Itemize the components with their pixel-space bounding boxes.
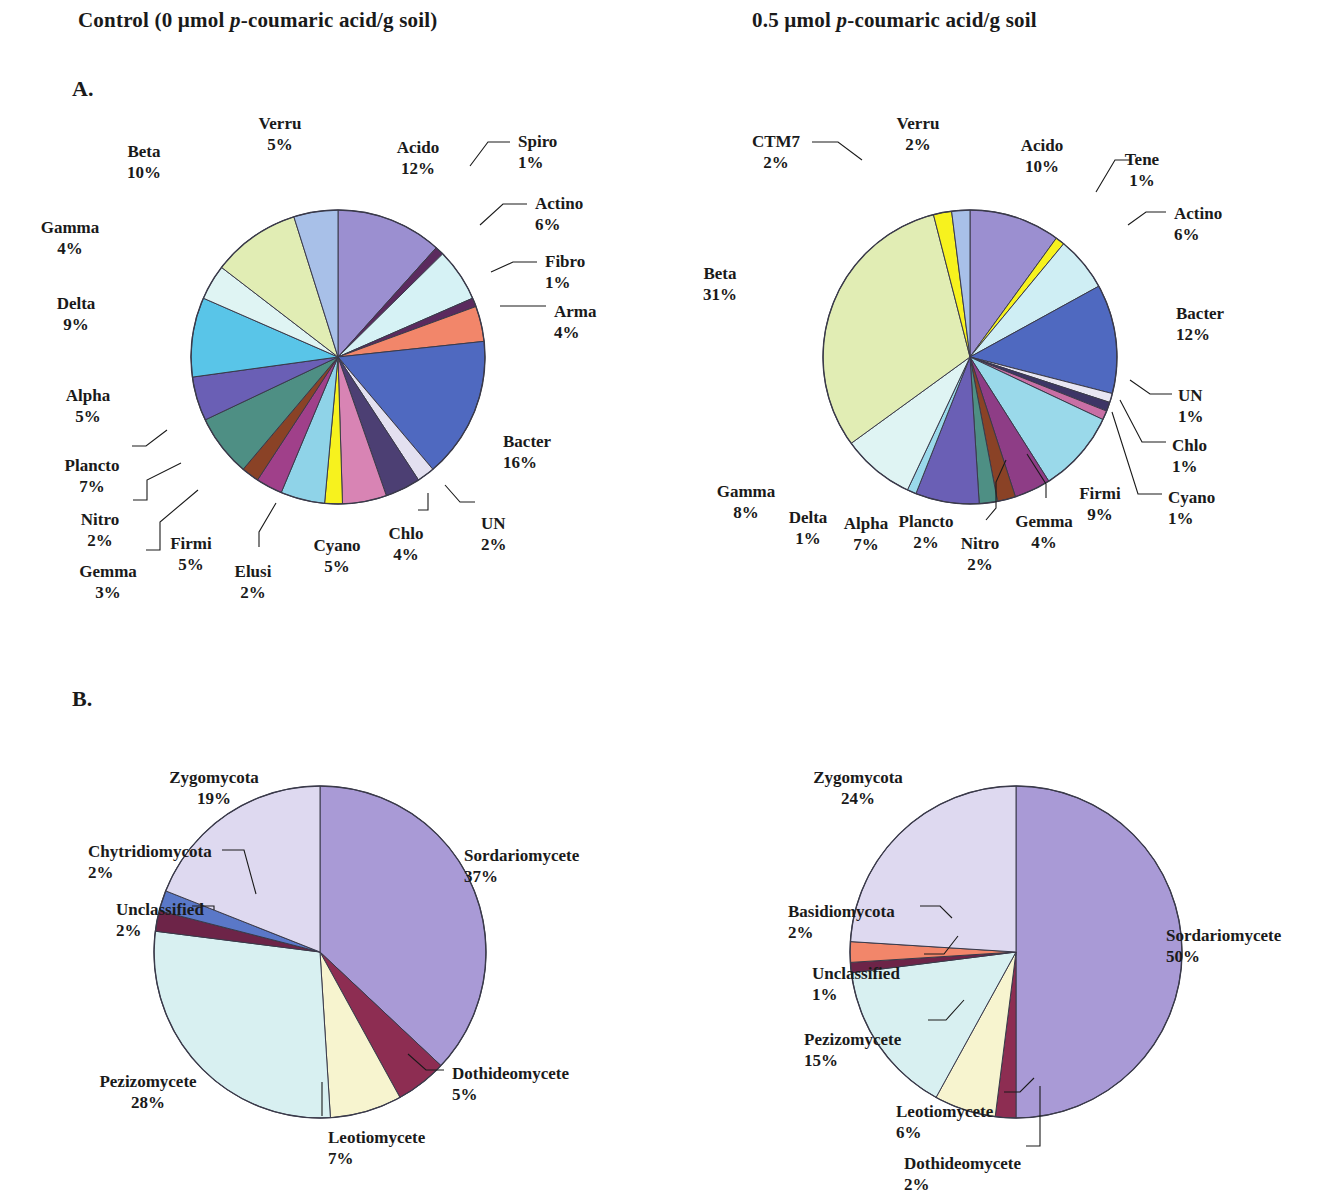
pie-label-value: 7% (79, 477, 105, 496)
pie-label-value: 2% (913, 533, 939, 552)
pie-label-dothideomycete: Dothideomycete2% (904, 1154, 1022, 1194)
pie-label-actino: Actino6% (535, 194, 583, 234)
pie-chart-bacteria-treated: Acido10%Tene1%Actino6%Bacter12%UN1%Chlo1… (790, 112, 1325, 652)
pie-slice-zygomycota (850, 786, 1016, 952)
pie-label-name: Dothideomycete (452, 1064, 570, 1083)
pie-label-value: 1% (1168, 509, 1194, 528)
leader-line-actino (480, 204, 527, 225)
leader-line-un (1130, 380, 1172, 394)
pie-label-name: Beta (127, 142, 161, 161)
pie-label-value: 4% (554, 323, 580, 342)
pie-label-leotiomycete: Leotiomycete7% (328, 1128, 426, 1168)
column-title-treated-italic: p (836, 8, 847, 32)
pie-label-value: 16% (503, 453, 537, 472)
pie-label-tene: Tene1% (1125, 150, 1160, 190)
pie-label-un: UN2% (481, 514, 507, 554)
column-title-treated: 0.5 µmol p-coumaric acid/g soil (752, 8, 1037, 33)
pie-chart-fungi-treated: Sordariomycete50%Leotiomycete6%Dothideom… (836, 748, 1325, 1188)
pie-label-alpha: Alpha5% (66, 386, 111, 426)
pie-label-name: Gamma (717, 482, 776, 501)
pie-label-name: Fibro (545, 252, 585, 271)
pie-label-name: Alpha (66, 386, 111, 405)
panel-a-letter: A. (72, 76, 93, 102)
pie-slices (823, 210, 1117, 504)
pie-label-value: 28% (131, 1093, 165, 1112)
pie-label-value: 2% (240, 583, 266, 602)
panel-b-letter: B. (72, 686, 92, 712)
pie-label-alpha: Alpha7% (844, 514, 889, 554)
pie-label-name: Unclassified (812, 964, 900, 983)
pie-label-value: 6% (535, 215, 561, 234)
pie-slices (154, 786, 486, 1118)
pie-slice-sordariomycete (1016, 786, 1182, 1118)
pie-label-value: 5% (324, 557, 350, 576)
pie-label-name: Pezizomycete (804, 1030, 902, 1049)
pie-slices (191, 210, 485, 504)
pie-label-delta: Delta1% (789, 508, 828, 548)
pie-label-name: Delta (789, 508, 828, 527)
pie-label-name: Acido (1021, 136, 1064, 155)
pie-label-name: Alpha (844, 514, 889, 533)
pie-label-value: 12% (1176, 325, 1210, 344)
pie-label-plancto: Plancto2% (899, 512, 954, 552)
pie-label-verru: Verru2% (897, 114, 940, 154)
pie-label-gemma: Gemma3% (79, 562, 137, 602)
pie-label-arma: Arma4% (554, 302, 597, 342)
pie-svg-bacteria-control: Acido12%Spiro1%Actino6%Fibro1%Arma4%Bact… (48, 112, 608, 652)
pie-label-value: 1% (1172, 457, 1198, 476)
pie-label-name: Delta (57, 294, 96, 313)
pie-label-value: 4% (393, 545, 419, 564)
pie-label-name: Sordariomycete (464, 846, 580, 865)
pie-label-value: 10% (1025, 157, 1059, 176)
pie-label-name: Acido (397, 138, 440, 157)
pie-label-name: Chlo (389, 524, 424, 543)
pie-label-delta: Delta9% (57, 294, 96, 334)
pie-label-beta: Beta10% (127, 142, 161, 182)
pie-label-value: 24% (841, 789, 875, 808)
pie-label-name: Nitro (961, 534, 999, 553)
pie-label-beta: Beta31% (703, 264, 737, 304)
pie-label-name: Spiro (518, 132, 557, 151)
pie-label-name: Bacter (503, 432, 552, 451)
pie-label-value: 2% (904, 1175, 930, 1194)
pie-label-value: 7% (853, 535, 879, 554)
leader-line-fibro (491, 262, 537, 272)
leader-line-ctm7 (812, 142, 862, 160)
pie-label-name: Dothideomycete (904, 1154, 1022, 1173)
pie-label-value: 37% (464, 867, 498, 886)
leader-line-nitro (133, 463, 181, 500)
pie-label-name: Arma (554, 302, 597, 321)
pie-label-value: 4% (57, 239, 83, 258)
pie-label-name: Leotiomycete (328, 1128, 426, 1147)
pie-label-value: 2% (116, 921, 142, 940)
pie-label-name: Leotiomycete (896, 1102, 994, 1121)
pie-label-nitro: Nitro2% (961, 534, 999, 574)
pie-label-leotiomycete: Leotiomycete6% (896, 1102, 994, 1142)
pie-label-value: 2% (967, 555, 993, 574)
pie-label-name: Tene (1125, 150, 1160, 169)
pie-label-cyano: Cyano1% (1168, 488, 1215, 528)
pie-label-name: Plancto (899, 512, 954, 531)
pie-label-name: Nitro (81, 510, 119, 529)
pie-label-sordariomycete: Sordariomycete37% (464, 846, 580, 886)
leader-line-actino (1128, 212, 1166, 225)
pie-label-value: 15% (804, 1051, 838, 1070)
pie-label-value: 4% (1031, 533, 1057, 552)
pie-label-gamma: Gamma8% (717, 482, 776, 522)
pie-svg-bacteria-treated: Acido10%Tene1%Actino6%Bacter12%UN1%Chlo1… (790, 112, 1325, 652)
pie-label-actino: Actino6% (1174, 204, 1222, 244)
leader-line-chlo (418, 493, 428, 510)
pie-label-value: 12% (401, 159, 435, 178)
pie-label-name: Plancto (65, 456, 120, 475)
pie-label-firmi: Firmi5% (170, 534, 212, 574)
pie-label-name: UN (481, 514, 506, 533)
pie-label-value: 2% (788, 923, 814, 942)
leader-line-plancto (132, 430, 167, 446)
pie-label-value: 1% (518, 153, 544, 172)
pie-label-value: 5% (267, 135, 293, 154)
pie-label-value: 2% (763, 153, 789, 172)
column-title-control-italic: p (230, 8, 241, 32)
pie-label-zygomycota: Zygomycota19% (169, 768, 259, 808)
column-title-control-post: -coumaric acid/g soil) (241, 8, 438, 32)
pie-label-name: Actino (1174, 204, 1222, 223)
